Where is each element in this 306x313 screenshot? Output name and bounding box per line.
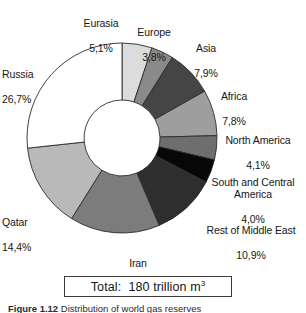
slice-label-russia: Russia 26,7% bbox=[2, 56, 58, 117]
total-exponent: 3 bbox=[201, 278, 206, 287]
figure-caption-text: Distribution of world gas reserves bbox=[61, 303, 201, 313]
slice-label-rest-of-middle-east-name: Rest of Middle East bbox=[196, 224, 306, 236]
figure-container: Eurasia 5,1% Europe 3,8% Asia 7,9% Afric… bbox=[0, 0, 306, 313]
slice-label-rest-of-middle-east-pct: 10,9% bbox=[196, 249, 306, 261]
slice-label-qatar: Qatar 14,4% bbox=[2, 204, 58, 265]
total-value: 180 trillion m bbox=[128, 280, 200, 294]
total-text: Total: 180 trillion m3 bbox=[91, 280, 205, 294]
slice-label-qatar-name: Qatar bbox=[2, 216, 58, 228]
slice-label-iran-name: Iran bbox=[108, 257, 168, 269]
slice-label-europe-pct: 3,8% bbox=[128, 51, 180, 63]
slice-label-qatar-pct: 14,4% bbox=[2, 241, 58, 253]
total-box: Total: 180 trillion m3 bbox=[64, 276, 232, 297]
figure-caption-label: Figure 1.12 bbox=[8, 303, 58, 313]
slice-label-asia-pct: 7,9% bbox=[182, 67, 230, 79]
slice-label-europe-name: Europe bbox=[128, 26, 180, 38]
slice-label-eurasia-name: Eurasia bbox=[74, 17, 128, 29]
slice-label-asia-name: Asia bbox=[182, 42, 230, 54]
slice-label-russia-pct: 26,7% bbox=[2, 93, 58, 105]
slice-label-south-and-central-america-name: South and Central America bbox=[200, 176, 306, 200]
slice-label-rest-of-middle-east: Rest of Middle East 10,9% bbox=[196, 212, 306, 273]
slice-label-eurasia-pct: 5,1% bbox=[74, 42, 128, 54]
slice-label-russia-name: Russia bbox=[2, 68, 58, 80]
total-prefix: Total: bbox=[91, 280, 121, 294]
figure-caption: Figure 1.12 Distribution of world gas re… bbox=[8, 303, 306, 313]
slice-label-eurasia: Eurasia 5,1% bbox=[74, 5, 128, 66]
slice-label-europe: Europe 3,8% bbox=[128, 14, 180, 75]
slice-label-africa-name: Africa bbox=[208, 90, 260, 102]
slice-label-north-america-name: North America bbox=[212, 134, 304, 146]
